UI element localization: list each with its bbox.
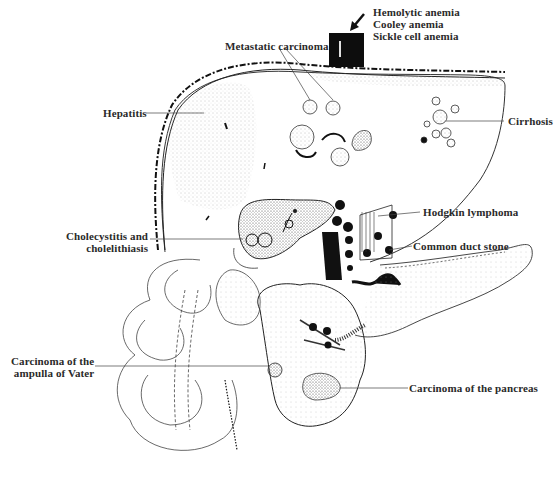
black-block-icon	[329, 33, 364, 67]
label-cirrhosis: Cirrhosis	[508, 115, 553, 127]
label-hemolytic-anemia: Hemolytic anemia Cooley anemia Sickle ce…	[373, 6, 460, 42]
arrow-down-left-icon	[350, 14, 364, 31]
label-common-duct-stone: Common duct stone	[413, 240, 509, 252]
label-cholecystitis-cholelithiasis: Cholecystitis and cholelithiasis	[66, 230, 148, 254]
duodenum-pancreatic-head	[258, 284, 366, 427]
label-hepatitis: Hepatitis	[103, 107, 147, 119]
cirrhosis-nodules	[421, 97, 459, 147]
metastatic-nodules	[290, 100, 371, 166]
label-carcinoma-ampulla-vater: Carcinoma of the ampulla of Vater	[11, 355, 94, 379]
label-metastatic-carcinoma: Metastatic carcinoma	[225, 40, 329, 52]
label-carcinoma-pancreas: Carcinoma of the pancreas	[409, 382, 538, 394]
colon	[117, 259, 260, 450]
label-hodgkin-lymphoma: Hodgkin lymphoma	[423, 206, 518, 218]
gallbladder	[234, 199, 335, 268]
